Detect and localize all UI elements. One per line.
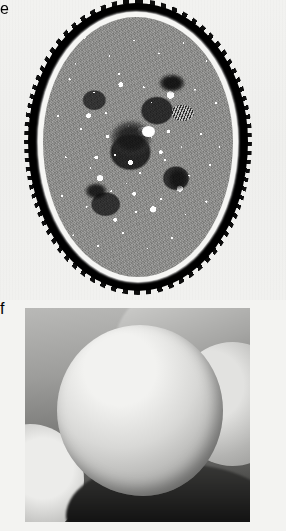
panel-f: f [0, 300, 286, 531]
tem-grain-noise [43, 17, 233, 277]
figure-container: e f [0, 0, 286, 531]
pollen-grain-main [57, 325, 224, 496]
tem-micrograph-e [28, 3, 248, 291]
sem-micrograph-f [25, 308, 250, 522]
reticulum-main [57, 325, 224, 496]
panel-e: e [0, 0, 286, 300]
spore-cytoplasm [43, 17, 233, 277]
